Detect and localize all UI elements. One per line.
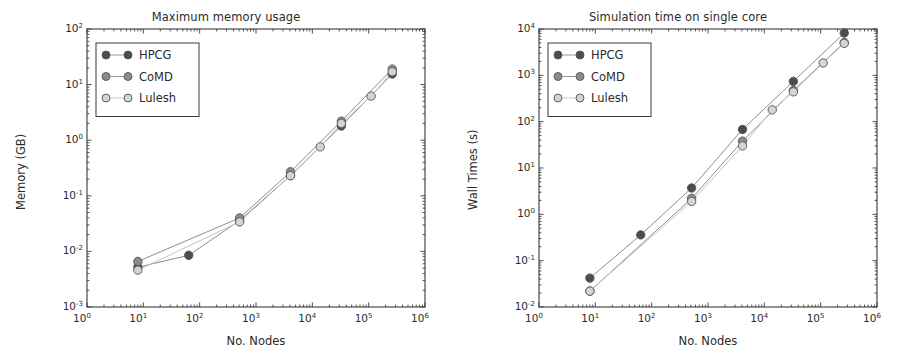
legend-label-hpcg: HPCG xyxy=(591,48,624,62)
x-tick-label: 104 xyxy=(298,312,316,324)
x-tick-label: 101 xyxy=(581,312,599,324)
legend-marker-lulesh xyxy=(102,94,110,102)
x-tick-label: 100 xyxy=(73,312,91,324)
legend-label-lulesh: Lulesh xyxy=(591,91,628,105)
y-tick-label: 101 xyxy=(53,78,83,90)
x-tick-label: 103 xyxy=(694,312,712,324)
legend-marker-comd xyxy=(124,73,132,81)
legend-marker-comd xyxy=(554,73,562,81)
figure-container: Maximum memory usage HPCGCoMDLulesh 1001… xyxy=(0,0,904,356)
legend-marker-lulesh xyxy=(554,94,562,102)
x-axis-label: No. Nodes xyxy=(539,334,877,348)
data-point-lulesh xyxy=(367,92,375,100)
y-tick-label: 102 xyxy=(53,22,83,34)
data-point-hpcg xyxy=(185,251,193,259)
data-point-lulesh xyxy=(819,59,827,67)
x-tick-label: 104 xyxy=(750,312,768,324)
x-tick-label: 103 xyxy=(242,312,260,324)
x-tick-label: 105 xyxy=(807,312,825,324)
data-point-lulesh xyxy=(337,119,345,127)
y-tick-label: 10-1 xyxy=(53,189,83,201)
legend-marker-lulesh xyxy=(124,94,132,102)
legend[interactable]: HPCGCoMDLulesh xyxy=(548,43,651,117)
data-point-hpcg xyxy=(738,125,746,133)
data-point-hpcg xyxy=(586,274,594,282)
x-tick-label: 106 xyxy=(863,312,881,324)
x-tick-label: 102 xyxy=(186,312,204,324)
x-tick-label: 102 xyxy=(638,312,656,324)
x-axis-label: No. Nodes xyxy=(87,334,425,348)
legend-marker-lulesh xyxy=(576,94,584,102)
y-tick-label: 101 xyxy=(505,161,535,173)
data-point-hpcg xyxy=(789,77,797,85)
y-tick-label: 10-2 xyxy=(53,244,83,256)
data-point-lulesh xyxy=(768,106,776,114)
legend-label-hpcg: HPCG xyxy=(139,48,172,62)
y-tick-label: 102 xyxy=(505,115,535,127)
chart-panel-walltime: Simulation time on single core HPCGCoMDL… xyxy=(452,0,904,356)
data-point-lulesh xyxy=(789,88,797,96)
x-tick-label: 105 xyxy=(355,312,373,324)
legend-marker-hpcg xyxy=(576,51,584,59)
data-point-lulesh xyxy=(286,171,294,179)
data-point-lulesh xyxy=(134,266,142,274)
y-axis-label: Memory (GB) xyxy=(14,134,28,210)
data-point-lulesh xyxy=(316,143,324,151)
data-point-hpcg xyxy=(687,184,695,192)
data-point-lulesh xyxy=(840,39,848,47)
y-tick-label: 100 xyxy=(505,207,535,219)
data-point-lulesh xyxy=(738,142,746,150)
x-tick-label: 106 xyxy=(411,312,429,324)
data-point-comd xyxy=(134,257,142,265)
legend-marker-hpcg xyxy=(554,51,562,59)
y-tick-label: 104 xyxy=(505,22,535,34)
data-point-lulesh xyxy=(235,218,243,226)
data-point-lulesh xyxy=(388,68,396,76)
chart-panel-memory: Maximum memory usage HPCGCoMDLulesh 1001… xyxy=(0,0,452,356)
y-tick-label: 10-3 xyxy=(53,300,83,312)
x-tick-label: 101 xyxy=(129,312,147,324)
y-tick-label: 10-1 xyxy=(505,254,535,266)
legend-marker-hpcg xyxy=(102,51,110,59)
data-point-lulesh xyxy=(687,197,695,205)
data-point-lulesh xyxy=(586,287,594,295)
legend-label-comd: CoMD xyxy=(139,70,173,84)
legend-marker-hpcg xyxy=(124,51,132,59)
legend-label-comd: CoMD xyxy=(591,70,625,84)
data-point-hpcg xyxy=(637,231,645,239)
legend-marker-comd xyxy=(102,73,110,81)
y-tick-label: 10-2 xyxy=(505,300,535,312)
y-tick-label: 100 xyxy=(53,133,83,145)
legend-label-lulesh: Lulesh xyxy=(139,91,176,105)
y-axis-label: Wall Times (s) xyxy=(466,130,480,210)
data-point-hpcg xyxy=(840,29,848,37)
legend-marker-comd xyxy=(576,73,584,81)
legend[interactable]: HPCGCoMDLulesh xyxy=(96,43,199,117)
x-tick-label: 100 xyxy=(525,312,543,324)
y-tick-label: 103 xyxy=(505,68,535,80)
